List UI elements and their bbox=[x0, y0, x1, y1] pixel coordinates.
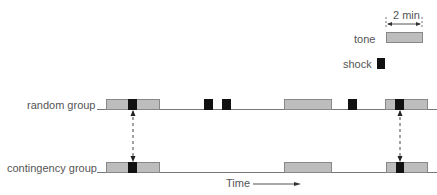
contingency-tone-3 bbox=[386, 162, 428, 173]
contingency-group-label: contingency group bbox=[7, 162, 97, 174]
contingency-tone-2 bbox=[284, 162, 332, 173]
contingency-shock-2 bbox=[396, 162, 404, 173]
tone-legend-swatch bbox=[386, 32, 423, 43]
shock-legend-label: shock bbox=[343, 58, 372, 70]
random-tone-2 bbox=[284, 99, 332, 110]
random-shock-1 bbox=[128, 99, 137, 110]
shock-legend-swatch bbox=[377, 58, 385, 69]
scale-label: 2 min bbox=[393, 9, 420, 21]
random-shock-3 bbox=[222, 99, 231, 110]
random-tone-3 bbox=[385, 99, 428, 110]
tone-legend-label: tone bbox=[354, 33, 375, 45]
random-shock-5 bbox=[395, 99, 404, 110]
random-shock-2 bbox=[204, 99, 213, 110]
random-shock-4 bbox=[348, 99, 357, 110]
time-axis-label: Time bbox=[226, 177, 250, 189]
contingency-shock-1 bbox=[128, 162, 137, 173]
random-group-label: random group bbox=[27, 99, 96, 111]
